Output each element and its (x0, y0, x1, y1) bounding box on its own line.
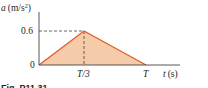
y-tick-0.6: 0.6 (21, 26, 33, 36)
x-tick-T-over-3: T/3 (77, 69, 90, 79)
acceleration-time-graph: a(m/s2) 0.6 0 T/3 T t(s) Fig. P11.31 (0, 0, 208, 88)
x-tick-T: T (143, 69, 149, 79)
y-axis-label: a(m/s2) (1, 3, 31, 14)
x-axis-label: t(s) (163, 69, 178, 80)
figure-caption: Fig. P11.31 (1, 83, 48, 88)
origin-label: 0 (30, 60, 35, 70)
